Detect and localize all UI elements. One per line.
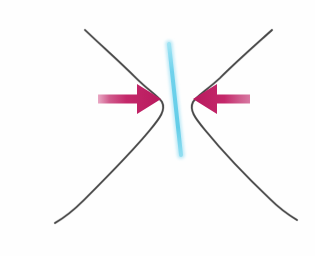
figure-background	[0, 0, 315, 256]
waist-pinch-diagram	[0, 0, 315, 256]
figure-root	[0, 0, 315, 256]
